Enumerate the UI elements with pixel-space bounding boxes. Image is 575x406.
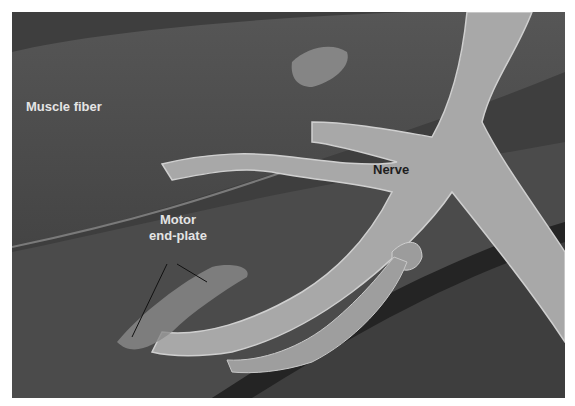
micrograph-graphic bbox=[12, 12, 565, 398]
label-motor-end-plate: Motor end-plate bbox=[138, 212, 218, 244]
label-motor-line1: Motor bbox=[138, 212, 218, 228]
label-muscle-fiber: Muscle fiber bbox=[26, 99, 102, 115]
micrograph: Muscle fiber Motor end-plate Nerve bbox=[12, 12, 565, 398]
label-motor-line2: end-plate bbox=[138, 228, 218, 244]
label-nerve: Nerve bbox=[373, 162, 409, 178]
